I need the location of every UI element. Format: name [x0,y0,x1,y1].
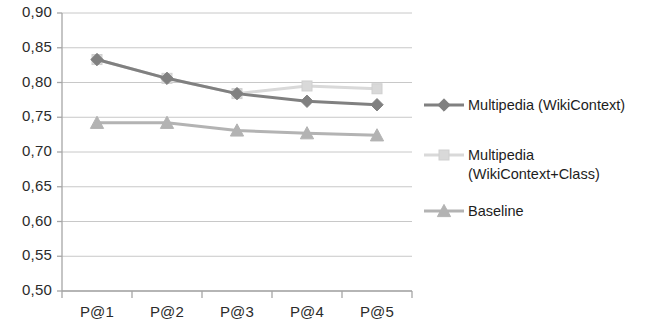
square-marker [372,84,382,94]
legend-markers [420,0,656,330]
y-axis-tick-label: 0,55 [0,246,52,263]
x-axis-tick-label-pat5: P@5 [342,303,412,320]
y-axis-tick-label: 0,90 [0,3,52,20]
y-axis-tick-label: 0,75 [0,107,52,124]
x-axis-tick-label-pat3: P@3 [202,303,272,320]
y-axis-tick-label: 0,85 [0,38,52,55]
axis-lines [57,13,412,298]
y-axis-tick-label: 0,65 [0,177,52,194]
grid-lines [62,13,412,291]
diamond-marker [301,95,313,107]
x-axis-tick-label-pat2: P@2 [132,303,202,320]
x-axis-tick-label-pat4: P@4 [272,303,342,320]
y-axis-tick-label: 0,70 [0,142,52,159]
series-triangle [90,116,383,141]
y-axis-tick-label: 0,80 [0,73,52,90]
x-axis-tick-label-pat1: P@1 [62,303,132,320]
diamond-marker [371,99,383,111]
diamond-marker [438,99,450,111]
square-marker [439,150,449,160]
chart-container: 0,900,850,800,750,700,650,600,550,50 P@1… [0,0,656,330]
y-axis-tick-label: 0,50 [0,281,52,298]
y-axis-tick-label: 0,60 [0,212,52,229]
square-marker [302,81,312,91]
